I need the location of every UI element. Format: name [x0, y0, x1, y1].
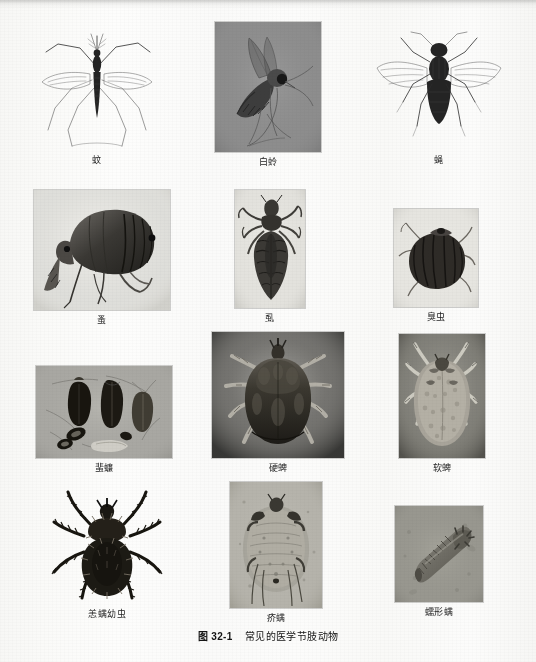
plate-cell-sandfly[interactable]: 白蛉 [183, 22, 353, 168]
chigger-larva-photograph [42, 482, 172, 604]
plate-cell-louse[interactable]: 虱 [192, 190, 348, 324]
plate-cell-bedbug[interactable]: 臭虫 [348, 190, 524, 323]
figure-title: 常见的医学节肢动物 [245, 631, 339, 642]
figure-page: 蚊 [0, 0, 536, 662]
plate-row-3: 蜚蠊 [0, 332, 536, 474]
plate-label-soft-tick: 软蜱 [360, 462, 524, 474]
plate-row-1: 蚊 [0, 22, 536, 174]
plate-cell-hard-tick[interactable]: 硬蜱 [196, 332, 360, 474]
plate-label-bedbug: 臭虫 [348, 311, 524, 323]
fly-illustration [369, 22, 509, 150]
soft-tick-photograph [399, 334, 485, 458]
cockroach-photograph [36, 366, 172, 458]
scan-edge-shadow [0, 0, 536, 9]
plate-row-4: 恙螨幼虫 [0, 482, 536, 622]
figure-caption: 图 32-1常见的医学节肢动物 [0, 628, 536, 643]
louse-photograph [235, 190, 305, 308]
plate-cell-soft-tick[interactable]: 软蜱 [360, 332, 524, 474]
hard-tick-photograph [212, 332, 344, 458]
plate-label-chigger-larva: 恙螨幼虫 [12, 608, 202, 620]
plate-label-sandfly: 白蛉 [183, 156, 353, 168]
plate-label-scabies-mite: 疥螨 [198, 612, 354, 624]
plate-cell-cockroach[interactable]: 蜚蠊 [12, 332, 196, 474]
plate-cell-scabies-mite[interactable]: 疥螨 [198, 482, 354, 624]
bedbug-photograph [394, 209, 478, 307]
plate-cell-mosquito[interactable]: 蚊 [12, 22, 182, 166]
plate-cell-flea[interactable]: 蚤 [12, 190, 192, 326]
plate-label-fly: 蝇 [354, 154, 524, 166]
figure-number: 图 32-1 [198, 631, 233, 642]
flea-photograph [34, 190, 170, 310]
plate-cell-chigger-larva[interactable]: 恙螨幼虫 [12, 482, 202, 620]
plate-label-louse: 虱 [192, 312, 348, 324]
mosquito-illustration [22, 22, 172, 150]
sandfly-photograph [215, 22, 321, 152]
plate-label-mosquito: 蚊 [12, 154, 182, 166]
plate-label-hard-tick: 硬蜱 [196, 462, 360, 474]
plate-cell-demodex-mite[interactable]: 蠕形螨 [354, 482, 524, 618]
plate-cell-fly[interactable]: 蝇 [354, 22, 524, 166]
plate-row-2: 蚤 [0, 190, 536, 330]
plate-label-flea: 蚤 [12, 314, 192, 326]
plate-label-demodex-mite: 蠕形螨 [354, 606, 524, 618]
plate-label-cockroach: 蜚蠊 [12, 462, 196, 474]
scabies-mite-photomicrograph [230, 482, 322, 608]
demodex-mite-photomicrograph [395, 506, 483, 602]
